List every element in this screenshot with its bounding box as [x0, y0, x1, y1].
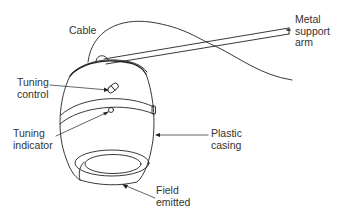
leader-lines: [50, 85, 208, 198]
label-tuning-indicator: Tuning indicator: [13, 128, 53, 151]
label-metal-support-arm: Metal support arm: [295, 14, 330, 49]
figure-caption-cutoff: [0, 210, 343, 214]
diagram-canvas: [0, 0, 343, 214]
emitter-face-outer: [75, 150, 149, 176]
label-field-emitted: Field emitted: [156, 185, 190, 208]
label-cable: Cable: [69, 25, 96, 37]
emitter-face-inner: [85, 155, 141, 174]
tuning-indicator-lamp: [109, 108, 114, 113]
tuning-control-knob: [106, 82, 119, 94]
label-plastic-casing: Plastic casing: [211, 128, 242, 151]
metal-support-arm: [104, 28, 290, 64]
label-tuning-control: Tuning control: [17, 77, 49, 100]
